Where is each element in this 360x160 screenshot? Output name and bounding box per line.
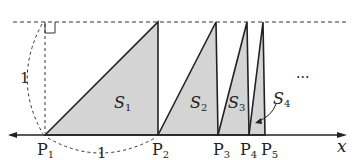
base-label: 1 — [97, 144, 107, 160]
x-axis-left-arrow-icon — [8, 132, 17, 138]
height-arc — [27, 24, 43, 134]
x-axis-label: x — [337, 136, 347, 156]
point-label-p5: P5 — [261, 140, 278, 160]
triangle-sequence-diagram: 1 1 P1 P2 P3 P4 P5 S1 S2 S3 S4 ··· x — [0, 0, 360, 160]
area-label-s4: S4 — [273, 89, 290, 109]
point-label-p4: P4 — [240, 140, 257, 160]
height-label: 1 — [20, 69, 30, 87]
ellipsis: ··· — [296, 69, 309, 85]
point-label-p2: P2 — [152, 140, 169, 160]
triangle-s2 — [158, 22, 218, 135]
triangle-s1 — [45, 22, 158, 135]
point-label-p1: P1 — [37, 140, 54, 160]
triangle-s4 — [249, 22, 265, 135]
point-label-p3: P3 — [213, 140, 230, 160]
right-angle-mark — [45, 22, 55, 33]
triangle-s3 — [218, 22, 249, 135]
